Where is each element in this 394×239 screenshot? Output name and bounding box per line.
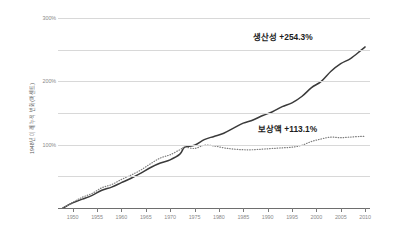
x-axis-tick-label: 1950 [67, 214, 79, 220]
x-axis-tick-mark [73, 208, 74, 212]
series-line-productivity [63, 47, 365, 208]
series-line-compensation [63, 136, 365, 208]
x-axis-tick-label: 2000 [311, 214, 323, 220]
gridline-250 [58, 50, 370, 51]
x-axis-tick-mark [121, 208, 122, 212]
x-axis-tick-mark [316, 208, 317, 212]
x-axis-tick-label: 1955 [91, 214, 103, 220]
x-axis-tick-mark [146, 208, 147, 212]
x-axis-tick-label: 1990 [262, 214, 274, 220]
x-axis-tick-label: 1960 [116, 214, 128, 220]
annotation-compensation: 보상액 +113.1% [258, 122, 317, 134]
x-axis-tick-mark [195, 208, 196, 212]
annotation-productivity: 생산성 +254.3% [253, 30, 313, 42]
x-axis-tick-label: 2010 [359, 214, 371, 220]
x-axis-line [58, 208, 370, 209]
x-axis-tick-mark [268, 208, 269, 212]
x-axis-tick-label: 1975 [189, 214, 201, 220]
gridline-200 [58, 81, 370, 82]
x-axis-tick-mark [243, 208, 244, 212]
x-axis-tick-label: 1985 [237, 214, 249, 220]
x-axis-tick-label: 1980 [213, 214, 225, 220]
x-axis-tick-label: 2005 [335, 214, 347, 220]
x-axis-tick-label: 1995 [286, 214, 298, 220]
x-axis-tick-label: 1970 [164, 214, 176, 220]
gridline-150 [58, 113, 370, 114]
x-axis-tick-mark [97, 208, 98, 212]
gridline-50 [58, 176, 370, 177]
x-axis-tick-mark [341, 208, 342, 212]
series-lines [0, 0, 394, 239]
x-axis-tick-mark [170, 208, 171, 212]
x-axis-tick-mark [365, 208, 366, 212]
productivity-compensation-chart: 100%200%300% 1948년 이래 누적 변화(퍼센트) 생산성 +25… [0, 0, 394, 239]
x-axis-tick-mark [219, 208, 220, 212]
x-axis-tick-mark [292, 208, 293, 212]
x-axis-tick-label: 1965 [140, 214, 152, 220]
gridline-300 [58, 18, 370, 19]
gridline-100 [58, 145, 370, 146]
